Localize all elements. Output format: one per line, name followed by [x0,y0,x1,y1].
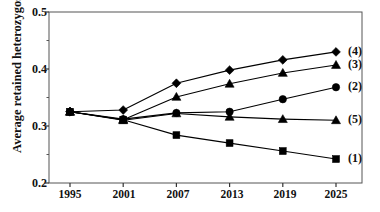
series-line [70,87,336,119]
marker-diamond [172,79,181,88]
axes [45,12,362,187]
series-line [70,52,336,112]
series-label-3: (3) [348,57,362,72]
series-4 [66,48,341,117]
chart-container: Average retained heterozygosity 0.5 0.4 … [0,0,380,212]
marker-circle [332,84,339,91]
marker-triangle [332,61,341,69]
series-line [70,112,336,121]
marker-circle [279,96,286,103]
marker-diamond [225,66,234,75]
plot-frame [49,12,362,183]
marker-square [279,148,286,155]
marker-square [226,140,233,147]
series-label-5: (5) [348,112,362,127]
series-label-2: (2) [348,79,362,94]
plot-area [0,0,380,212]
marker-diamond [278,55,287,64]
series-3 [66,61,341,124]
marker-square [333,156,340,163]
series-label-1: (1) [348,151,362,166]
marker-diamond [332,48,341,57]
series-5 [66,107,341,123]
series-layer [66,48,341,163]
series-line [70,65,336,120]
marker-square [173,132,180,139]
marker-diamond [119,106,128,115]
series-line [70,112,336,159]
